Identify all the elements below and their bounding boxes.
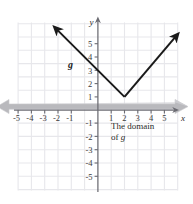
y-tick-label--5: -5 [85,173,92,182]
function-label-g: g [68,60,73,70]
x-tick-label--2: -2 [53,114,60,123]
y-tick-label-3: 3 [88,67,92,76]
y-axis-label: y [90,18,94,27]
y-tick-label-5: 5 [88,40,92,49]
x-tick-label--3: -3 [40,114,47,123]
y-tick-label-4: 4 [88,53,92,62]
y-tick-label--3: -3 [85,146,92,155]
x-tick-label--4: -4 [26,114,33,123]
y-tick-label-1: 1 [88,93,92,102]
domain-annotation: The domain of g [111,121,154,144]
x-tick-label--5: -5 [13,114,20,123]
y-tick-label--4: -4 [85,159,92,168]
graph-figure: -5 -4 -3 -2 -1 1 2 3 4 5 5 4 3 2 1 -1 -2… [0,0,193,204]
domain-annotation-line1: The domain [111,121,154,132]
y-tick-label--1: -1 [85,119,92,128]
y-tick-label-2: 2 [88,80,92,89]
function-graph-g [56,29,177,97]
domain-annotation-function: g [121,132,126,142]
x-tick-label-5: 5 [162,114,166,123]
x-tick-label--1: -1 [66,114,73,123]
domain-band [0,100,188,114]
x-axis-label: x [181,114,185,123]
coordinate-plane [0,0,193,204]
domain-annotation-line2: of g [111,132,154,143]
y-tick-label--2: -2 [85,133,92,142]
right-branch [125,36,177,97]
domain-annotation-prefix: of [111,132,121,142]
